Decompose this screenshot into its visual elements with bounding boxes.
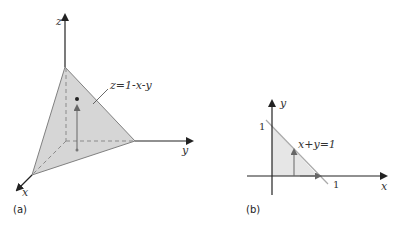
panel-b: y x 1 1 x+y=1 (b) — [246, 97, 388, 215]
y-axis-label-b: y — [279, 97, 287, 110]
panel-a: z=1-x-y z y x (a) — [13, 15, 192, 215]
x-axis-label-b: x — [381, 180, 388, 193]
panel-b-label: (b) — [246, 204, 260, 215]
y-axis-label: y — [181, 144, 189, 157]
y-tick-label: 1 — [259, 121, 265, 132]
surface-label: z=1-x-y — [109, 79, 152, 92]
x-axis-label: x — [22, 186, 29, 199]
panel-a-label: (a) — [13, 204, 27, 215]
z-axis-label: z — [55, 15, 62, 28]
figure: z=1-x-y z y x (a) y x 1 1 x+y=1 (b) — [0, 0, 405, 228]
surface-leader-line — [93, 89, 108, 104]
base-point — [76, 149, 79, 152]
line-label: x+y=1 — [298, 138, 336, 151]
x-tick-label: 1 — [333, 179, 339, 190]
surface-point — [75, 97, 79, 101]
